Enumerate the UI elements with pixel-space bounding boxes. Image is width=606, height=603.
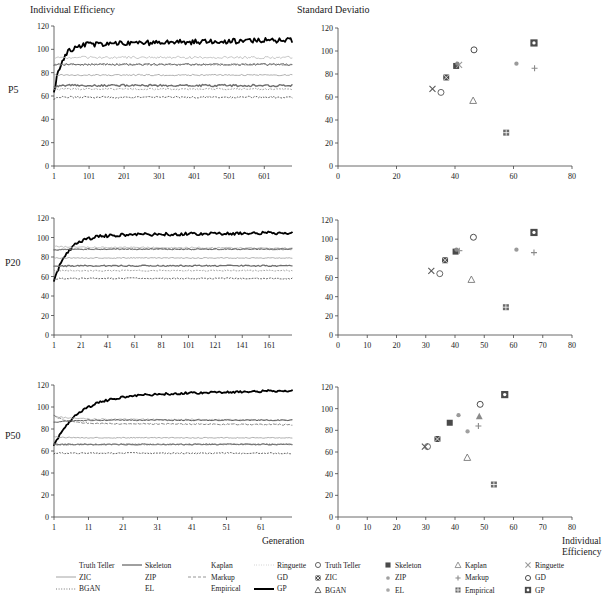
legend-item-gd[interactable]: GD [522, 572, 592, 584]
legend-item-markup[interactable]: Markup [187, 572, 253, 584]
legend-label: BGAN [79, 584, 100, 593]
scatter-point-el [465, 429, 469, 433]
svg-text:21: 21 [119, 523, 127, 532]
svg-text:20: 20 [41, 491, 49, 500]
svg-text:0: 0 [45, 513, 49, 522]
svg-text:80: 80 [41, 253, 49, 262]
svg-text:51: 51 [222, 523, 230, 532]
svg-text:1: 1 [52, 523, 56, 532]
legend-marker-icon [312, 573, 324, 583]
svg-text:31: 31 [153, 523, 161, 532]
legend-marker-icon [452, 573, 464, 583]
legend-item-zic[interactable]: ZIC [312, 572, 382, 584]
svg-text:20: 20 [393, 172, 401, 181]
legend-marker-icon [382, 585, 394, 595]
scatter-point-bgan [428, 268, 434, 274]
scatter-point-zip [514, 248, 518, 252]
scatter-point-bgan [429, 86, 435, 92]
scatter-point-truth-teller [438, 89, 444, 95]
scatter-point-empirical [503, 130, 509, 136]
legend-item-bgan[interactable]: BGAN [312, 585, 382, 597]
legend-item-gd[interactable]: GD [253, 572, 319, 584]
legend-label: ZIP [395, 573, 406, 582]
legend-marker-icon [522, 573, 534, 583]
scatter-point-zic [443, 74, 449, 80]
legend-line-icon [253, 573, 275, 581]
legend-label: Kaplan [211, 561, 233, 570]
svg-text:141: 141 [236, 341, 248, 350]
row-label-p5: P5 [8, 84, 19, 95]
scatter-point-gd [471, 47, 477, 53]
svg-text:100: 100 [37, 403, 49, 412]
x-axis-label-generation: Generation [262, 536, 304, 546]
legend-marker-icon [452, 560, 464, 570]
svg-text:0: 0 [336, 523, 340, 532]
legend-line-icon [253, 561, 275, 569]
legend-item-el[interactable]: EL [121, 584, 187, 596]
svg-text:80: 80 [41, 69, 49, 78]
svg-text:30: 30 [422, 523, 430, 532]
legend-item-kaplan[interactable]: Kaplan [452, 560, 522, 572]
svg-text:20: 20 [325, 491, 333, 500]
legend-line-icon [55, 561, 77, 569]
svg-text:40: 40 [451, 172, 459, 181]
legend-item-zip[interactable]: ZIP [121, 572, 187, 584]
legend-label: Ringuette [535, 561, 564, 570]
legend-label: Empirical [211, 584, 241, 593]
legend-line-icon [121, 573, 143, 581]
legend-item-gp[interactable]: GP [253, 584, 319, 596]
scatter-point-zic [434, 436, 440, 442]
scatter-point-gp [530, 39, 537, 46]
legend-item-empirical[interactable]: Empirical [452, 585, 522, 597]
legend-item-kaplan[interactable]: Kaplan [187, 560, 253, 572]
svg-text:60: 60 [510, 172, 518, 181]
svg-text:60: 60 [41, 447, 49, 456]
svg-text:120: 120 [321, 24, 333, 33]
legend-row: Truth TellerSkeletonKaplanRinguette [55, 560, 319, 572]
legend-item-ringuette[interactable]: Ringuette [522, 560, 592, 572]
svg-text:100: 100 [321, 47, 333, 56]
legend-row: BGANELEmpiricalGP [55, 584, 319, 596]
svg-text:30: 30 [422, 341, 430, 350]
legend-item-skeleton[interactable]: Skeleton [121, 560, 187, 572]
legend-label: BGAN [325, 586, 346, 595]
svg-text:100: 100 [321, 235, 333, 244]
scatter-point-zic [442, 257, 448, 263]
x-axis-label-line1: Individual [562, 536, 601, 547]
legend-line-icon [253, 585, 275, 593]
legend-item-bgan[interactable]: BGAN [55, 584, 121, 596]
scatter-point-el [455, 61, 459, 65]
legend-label: Skeleton [145, 561, 171, 570]
legend-item-el[interactable]: EL [382, 585, 452, 597]
legend-label: GD [277, 573, 288, 582]
legend-item-markup[interactable]: Markup [452, 572, 522, 584]
legend-marker-icon [452, 585, 464, 595]
legend-row: ZICZIPMarkupGD [55, 572, 319, 584]
svg-text:40: 40 [451, 523, 459, 532]
right-column-title: Standard Deviatio [297, 4, 369, 15]
svg-text:10: 10 [363, 523, 371, 532]
svg-text:0: 0 [45, 331, 49, 340]
svg-text:0: 0 [329, 331, 333, 340]
legend-line-icon [187, 561, 209, 569]
legend-item-ringuette[interactable]: Ringuette [253, 560, 319, 572]
legend-item-gp[interactable]: GP [522, 585, 592, 597]
scatter-point-gd [470, 234, 476, 240]
legend-item-zip[interactable]: ZIP [382, 572, 452, 584]
legend-item-empirical[interactable]: Empirical [187, 584, 253, 596]
legend-item-truth-teller[interactable]: Truth Teller [312, 560, 382, 572]
svg-text:61: 61 [257, 523, 265, 532]
x-axis-label-individual-efficiency: Individual Efficiency [562, 536, 601, 558]
legend-line-icon [121, 585, 143, 593]
svg-text:40: 40 [325, 116, 333, 125]
legend-label: Markup [465, 573, 489, 582]
svg-text:0: 0 [45, 162, 49, 171]
svg-text:1: 1 [52, 341, 56, 350]
legend-item-skeleton[interactable]: Skeleton [382, 560, 452, 572]
scatter-point-markup [531, 250, 537, 256]
legend-item-truth-teller[interactable]: Truth Teller [55, 560, 121, 572]
svg-text:50: 50 [480, 523, 488, 532]
legend-line-icon [121, 561, 143, 569]
svg-text:60: 60 [325, 274, 333, 283]
legend-item-zic[interactable]: ZIC [55, 572, 121, 584]
